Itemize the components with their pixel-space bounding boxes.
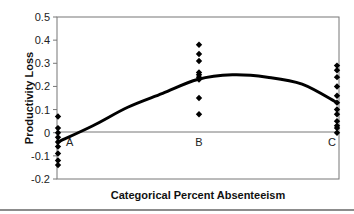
data-point-marker <box>196 42 202 48</box>
data-point-marker <box>196 111 202 117</box>
data-points <box>55 42 340 169</box>
scatter-chart: 0.50.40.30.20.10-0.1-0.2 ABC Productivit… <box>0 0 354 214</box>
y-tick-label: 0.2 <box>35 80 50 92</box>
x-axis-title: Categorical Percent Absenteeism <box>111 189 286 201</box>
y-tick-label: 0.5 <box>35 11 50 23</box>
x-category-labels: ABC <box>66 136 336 148</box>
data-point-marker <box>196 51 202 57</box>
data-point-marker <box>196 95 202 101</box>
y-tick-label: -0.1 <box>31 150 50 162</box>
data-point-marker <box>196 58 202 64</box>
y-tick-label: 0.3 <box>35 57 50 69</box>
category-label-c: C <box>328 136 336 148</box>
y-axis-title: Productivity Loss <box>23 52 35 144</box>
data-point-marker <box>55 143 61 149</box>
y-tick-label: -0.2 <box>31 173 50 185</box>
category-label-b: B <box>195 136 202 148</box>
data-point-marker <box>55 162 61 168</box>
data-point-marker <box>55 113 61 119</box>
y-tick-label: 0.4 <box>35 34 50 46</box>
y-tick-label: 0.1 <box>35 104 50 116</box>
y-tick-label: 0 <box>44 127 50 139</box>
